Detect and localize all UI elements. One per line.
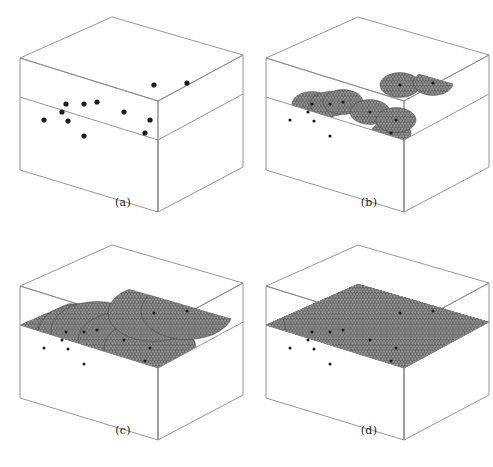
panel-b-diagram [246, 0, 492, 215]
panel-a-label: (a) [0, 196, 246, 209]
panel-c: (c) [0, 228, 246, 461]
panel-b: (b) [246, 0, 492, 233]
panel-b-label: (b) [246, 196, 492, 209]
panel-a-diagram [0, 0, 246, 215]
figure-nucleation-growth: (a) (b) (c) (d) [0, 0, 493, 467]
panel-d-diagram [246, 228, 492, 443]
panel-a: (a) [0, 0, 246, 233]
panel-d: (d) [246, 228, 492, 461]
panel-c-diagram [0, 228, 246, 443]
panel-c-label: (c) [0, 424, 246, 437]
panel-d-label: (d) [246, 424, 492, 437]
